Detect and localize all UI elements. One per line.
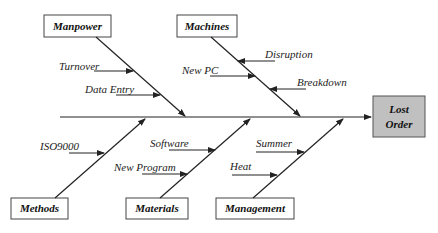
fishbone-diagram: Lost Order Manpower Turnover Data Entry … <box>0 0 438 233</box>
bone-management <box>253 119 343 198</box>
effect-label-line2: Order <box>386 118 414 130</box>
effect-box: Lost Order <box>373 96 425 137</box>
cause-iso9000: ISO9000 <box>39 140 80 152</box>
bone-manpower <box>96 37 185 116</box>
cause-new-program: New Program <box>113 161 176 173</box>
bone-methods <box>55 119 145 198</box>
category-manpower: Manpower Turnover Data Entry <box>44 15 185 116</box>
cause-summer: Summer <box>256 137 293 149</box>
category-label-manpower: Manpower <box>52 20 103 32</box>
cause-breakdown: Breakdown <box>297 76 347 88</box>
cause-data-entry: Data Entry <box>84 83 134 95</box>
bone-materials <box>160 119 250 198</box>
category-label-machines: Machines <box>184 20 230 32</box>
category-label-materials: Materials <box>134 202 178 214</box>
cause-turnover: Turnover <box>59 60 100 72</box>
category-label-management: Management <box>224 202 286 214</box>
effect-label-line1: Lost <box>388 103 410 115</box>
category-label-methods: Methods <box>19 202 59 214</box>
category-management: Management Summer Heat <box>216 119 343 219</box>
cause-heat: Heat <box>229 160 252 172</box>
category-machines: Machines Disruption New PC Breakdown <box>177 15 347 116</box>
cause-disruption: Disruption <box>264 48 313 60</box>
cause-new-pc: New PC <box>181 64 219 76</box>
cause-software: Software <box>150 137 189 149</box>
